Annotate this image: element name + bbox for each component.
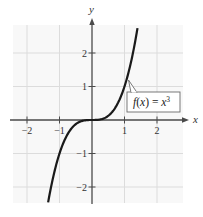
x-axis-arrow-icon xyxy=(182,117,189,122)
y-tick-label: −1 xyxy=(76,148,87,159)
y-tick-label: 1 xyxy=(82,81,87,92)
y-axis-label: y xyxy=(88,3,94,15)
y-tick-label: 2 xyxy=(82,48,87,59)
x-axis-label: x xyxy=(192,113,198,125)
x-tick-label: 1 xyxy=(122,125,127,136)
x-tick-label: −1 xyxy=(54,125,65,136)
y-tick-label: −2 xyxy=(76,182,87,193)
function-label: f(x) = x3 xyxy=(133,95,170,110)
cubic-function-chart: x −2 −1 1 2 y 2 1 −1 −2 f xyxy=(0,0,203,217)
x-tick-label: −2 xyxy=(22,125,33,136)
y-axis-arrow-icon xyxy=(89,18,94,25)
x-tick-label: 2 xyxy=(155,125,160,136)
